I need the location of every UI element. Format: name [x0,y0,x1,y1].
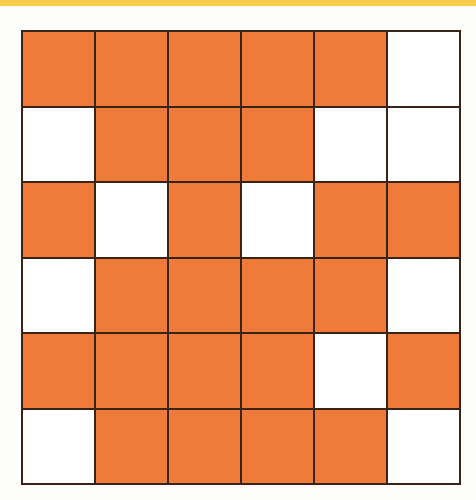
grid-cell-filled [169,183,240,257]
grid-cell-empty [23,108,94,182]
grid-cell-filled [242,32,313,106]
grid-cell-filled [388,183,459,257]
grid-cell-empty [388,410,459,484]
grid-cell-filled [23,334,94,408]
grid-cell-empty [388,108,459,182]
grid-cell-filled [96,334,167,408]
grid-cell-filled [96,259,167,333]
grid-cell-filled [96,108,167,182]
grid-cell-filled [315,32,386,106]
grid-cell-filled [23,32,94,106]
grid-cell-filled [388,334,459,408]
grid-cell-filled [23,183,94,257]
grid-cell-empty [388,32,459,106]
grid-cell-empty [23,259,94,333]
colored-grid [21,30,461,485]
grid-cell-empty [315,108,386,182]
grid-cell-filled [315,410,386,484]
grid-cell-filled [169,334,240,408]
grid-cell-filled [169,259,240,333]
grid-cell-filled [315,183,386,257]
grid-cell-empty [23,410,94,484]
grid-cell-empty [315,334,386,408]
grid-cell-filled [96,32,167,106]
grid-cell-filled [242,410,313,484]
grid-cell-filled [315,259,386,333]
grid-cell-filled [169,32,240,106]
grid-cell-filled [242,334,313,408]
grid-cell-filled [169,108,240,182]
grid-cell-filled [169,410,240,484]
grid-cell-empty [242,183,313,257]
grid-cell-empty [96,183,167,257]
grid-cell-filled [242,259,313,333]
grid-cell-empty [388,259,459,333]
top-border-strip [0,0,476,6]
grid-cell-filled [242,108,313,182]
grid-cell-filled [96,410,167,484]
